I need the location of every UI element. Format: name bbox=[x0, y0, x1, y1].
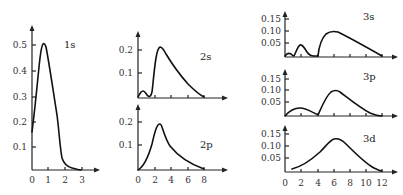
panel-3s: 0.15 0.10 0.05 3s bbox=[261, 11, 395, 57]
y-tick-label: 0.3 bbox=[13, 92, 28, 102]
x-tick-label: 3 bbox=[79, 175, 85, 185]
x-tick-label: 10 bbox=[360, 178, 372, 188]
curve-3p bbox=[285, 91, 382, 117]
curve-3s bbox=[285, 31, 382, 56]
x-tick-label: 4 bbox=[168, 175, 174, 185]
panel-3d: 0.15 0.10 0.05 0 2 4 6 8 10 12 3d bbox=[261, 128, 395, 188]
x-tick-label: 4 bbox=[315, 178, 321, 188]
panel-label: 3d bbox=[363, 133, 376, 144]
x-tick-label: 6 bbox=[185, 175, 191, 185]
y-tick-label: 0.2 bbox=[13, 117, 27, 127]
y-tick-label: 0.15 bbox=[261, 129, 281, 139]
y-tick-label: 0.1 bbox=[119, 68, 133, 78]
panel-label: 2s bbox=[200, 51, 212, 62]
y-tick-label: 0.5 bbox=[13, 40, 28, 50]
x-tick-label: 0 bbox=[29, 175, 35, 185]
y-tick-label: 0.15 bbox=[261, 74, 281, 84]
x-tick-label: 12 bbox=[376, 178, 387, 188]
x-tick-label: 8 bbox=[201, 175, 207, 185]
x-tick-label: 2 bbox=[298, 178, 304, 188]
y-tick-label: 0.05 bbox=[261, 38, 281, 48]
y-tick-label: 0.10 bbox=[261, 85, 281, 95]
y-tick-label: 0.1 bbox=[13, 142, 27, 152]
y-tick-label: 0.10 bbox=[261, 26, 281, 36]
curve-2s bbox=[138, 47, 204, 97]
x-tick-label: 2 bbox=[152, 175, 158, 185]
x-tick-label: 2 bbox=[62, 175, 68, 185]
y-tick-label: 0.1 bbox=[119, 140, 133, 150]
y-tick-label: 0.2 bbox=[119, 117, 133, 127]
charts-svg: 0.5 0.4 0.3 0.2 0.1 0 1 2 3 1s 0.2 0.1 2… bbox=[0, 0, 403, 195]
panel-2p: 0.2 0.1 0 2 4 6 8 2p bbox=[119, 107, 225, 185]
panel-label: 3p bbox=[363, 71, 376, 82]
x-tick-label: 0 bbox=[135, 175, 141, 185]
panel-label: 1s bbox=[64, 39, 76, 50]
radial-distribution-charts: 0.5 0.4 0.3 0.2 0.1 0 1 2 3 1s 0.2 0.1 2… bbox=[0, 0, 403, 195]
y-tick-label: 0.2 bbox=[119, 45, 133, 55]
y-tick-label: 0.05 bbox=[261, 97, 281, 107]
curve-1s bbox=[32, 44, 81, 170]
curve-2p bbox=[138, 124, 204, 170]
x-tick-label: 8 bbox=[347, 178, 353, 188]
panel-label: 2p bbox=[200, 139, 213, 150]
x-tick-label: 0 bbox=[282, 178, 288, 188]
y-tick-label: 0.05 bbox=[261, 153, 281, 163]
x-tick-label: 6 bbox=[331, 178, 337, 188]
panel-3p: 0.15 0.10 0.05 3p bbox=[261, 71, 395, 116]
panel-2s: 0.2 0.1 2s bbox=[119, 34, 225, 98]
y-tick-label: 0.15 bbox=[261, 14, 281, 24]
x-tick-label: 1 bbox=[45, 175, 51, 185]
panel-label: 3s bbox=[363, 11, 375, 22]
panel-1s: 0.5 0.4 0.3 0.2 0.1 0 1 2 3 1s bbox=[13, 28, 97, 185]
y-tick-label: 0.4 bbox=[13, 66, 28, 76]
y-tick-label: 0.10 bbox=[261, 141, 281, 151]
